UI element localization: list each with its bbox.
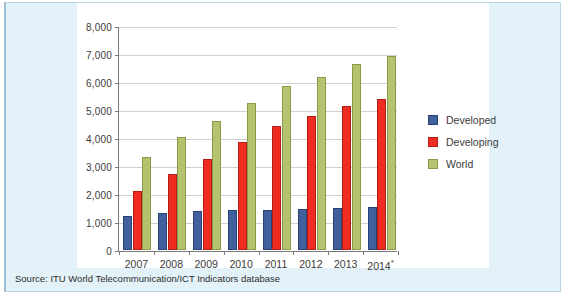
bar-developing-2008[interactable] <box>168 174 177 250</box>
y-axis-tick <box>115 139 119 140</box>
bar-developing-2012[interactable] <box>307 116 316 250</box>
plot-axes: 01,0002,0003,0004,0005,0006,0007,0008,00… <box>118 27 397 252</box>
bar-world-2013[interactable] <box>352 64 361 250</box>
bar-world-2014[interactable] <box>387 56 396 250</box>
x-axis-tick <box>363 251 364 255</box>
x-axis-tick-label: 2014* <box>367 258 393 272</box>
y-axis-tick <box>115 83 119 84</box>
bar-world-2011[interactable] <box>282 86 291 250</box>
x-axis-tick-label: 2012 <box>299 258 322 270</box>
y-axis-tick-label: 8,000 <box>86 22 112 33</box>
x-axis-tick-label: 2009 <box>195 258 218 270</box>
bar-developed-2008[interactable] <box>158 213 167 250</box>
y-axis-tick-label: 1,000 <box>86 218 112 229</box>
bar-developing-2009[interactable] <box>203 159 212 250</box>
bar-group <box>333 27 361 250</box>
bar-world-2008[interactable] <box>177 137 186 250</box>
y-axis-tick-label: 6,000 <box>86 78 112 89</box>
legend-item-developing[interactable]: Developing <box>428 131 548 153</box>
y-axis-tick-label: 7,000 <box>86 50 112 61</box>
y-axis-tick <box>115 167 119 168</box>
x-axis-tick-label: 2007 <box>125 258 148 270</box>
bar-group <box>298 27 326 250</box>
bar-groups <box>120 27 397 250</box>
bar-world-2009[interactable] <box>212 121 221 250</box>
y-axis-tick-label: 3,000 <box>86 162 112 173</box>
source-note: Source: ITU World Telecommunication/ICT … <box>15 273 280 284</box>
bar-world-2010[interactable] <box>247 103 256 250</box>
y-axis-tick <box>115 27 119 28</box>
figure-panel: 01,0002,0003,0004,0005,0006,0007,0008,00… <box>4 2 561 292</box>
y-axis-tick-label: 4,000 <box>86 134 112 145</box>
bar-developing-2014[interactable] <box>377 99 386 250</box>
x-axis-tick-label: 2008 <box>160 258 183 270</box>
bar-world-2007[interactable] <box>142 157 151 250</box>
bar-developing-2010[interactable] <box>238 142 247 250</box>
x-axis-tick-label: 2010 <box>229 258 252 270</box>
y-axis-tick <box>115 195 119 196</box>
bar-group <box>368 27 396 250</box>
x-axis-tick <box>328 251 329 255</box>
bar-developing-2011[interactable] <box>272 126 281 250</box>
bar-developed-2007[interactable] <box>123 216 132 250</box>
legend-label: World <box>446 158 473 170</box>
y-axis-tick <box>115 111 119 112</box>
x-axis-tick <box>189 251 190 255</box>
legend-label: Developing <box>446 136 499 148</box>
legend-swatch-icon <box>428 159 438 169</box>
chart-legend: DevelopedDevelopingWorld <box>428 109 548 175</box>
x-axis-tick <box>259 251 260 255</box>
bar-group <box>193 27 221 250</box>
x-axis-tick <box>119 251 120 255</box>
bar-developed-2010[interactable] <box>228 210 237 250</box>
x-axis-tick <box>398 251 399 255</box>
bar-developed-2011[interactable] <box>263 210 272 250</box>
legend-item-world[interactable]: World <box>428 153 548 175</box>
y-axis-tick <box>115 55 119 56</box>
y-axis-tick-label: 2,000 <box>86 190 112 201</box>
legend-swatch-icon <box>428 137 438 147</box>
bar-developed-2012[interactable] <box>298 209 307 250</box>
bar-developed-2009[interactable] <box>193 211 202 250</box>
bar-developed-2013[interactable] <box>333 208 342 250</box>
y-axis-tick-label: 0 <box>106 246 112 257</box>
legend-label: Developed <box>446 114 496 126</box>
x-axis-tick <box>293 251 294 255</box>
legend-swatch-icon <box>428 115 438 125</box>
bar-group <box>228 27 256 250</box>
bar-group <box>158 27 186 250</box>
bar-developed-2014[interactable] <box>368 207 377 250</box>
legend-item-developed[interactable]: Developed <box>428 109 548 131</box>
bar-group <box>263 27 291 250</box>
bar-developing-2007[interactable] <box>133 191 142 250</box>
x-axis-tick-label: 2013 <box>334 258 357 270</box>
bar-world-2012[interactable] <box>317 77 326 250</box>
chart-plot-area: 01,0002,0003,0004,0005,0006,0007,0008,00… <box>118 27 397 252</box>
y-axis-tick-label: 5,000 <box>86 106 112 117</box>
x-axis-tick <box>224 251 225 255</box>
x-axis-tick-label: 2011 <box>265 258 288 270</box>
x-axis-tick <box>154 251 155 255</box>
y-axis-tick <box>115 223 119 224</box>
bar-developing-2013[interactable] <box>342 106 351 250</box>
bar-group <box>123 27 151 250</box>
